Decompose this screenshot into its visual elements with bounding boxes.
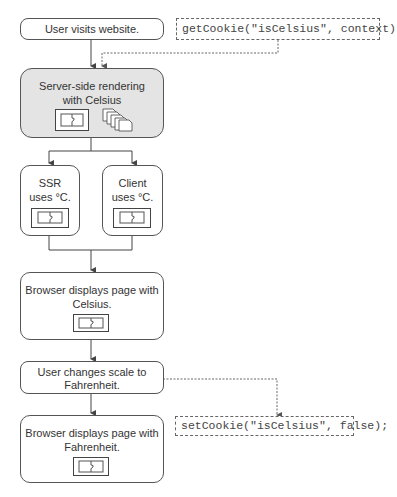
node-browser-displays-celsius: Browser displays page with Celsius. [20,272,164,340]
node-client-uses-celsius: Client uses °C. [102,165,163,236]
page-stack-icon [101,107,137,133]
code-set-cookie: setCookie("isCelsius", false); [175,416,354,436]
component-puzzle-icon [113,208,151,228]
node-label-line2: uses °C. [21,190,79,204]
node-browser-displays-fahrenheit: Browser displays page with Fahrenheit. [20,415,164,483]
component-puzzle-icon [73,314,109,332]
code-text: getCookie("isCelsius", context) [182,22,396,35]
node-label-line1: Browser displays page with [21,426,163,440]
node-label: User visits website. [45,23,139,35]
node-label-line2: Fahrenheit. [21,378,163,392]
node-ssr-uses-celsius: SSR uses °C. [20,165,80,236]
node-user-visits: User visits website. [20,18,164,40]
code-get-cookie: getCookie("isCelsius", context) [176,18,380,40]
node-label-line2: Celsius. [21,297,163,311]
component-puzzle-icon [73,457,109,476]
node-label-line1: Browser displays page with [21,283,163,297]
node-label-line1: Client [103,176,162,190]
node-server-side-rendering: Server-side rendering with Celsius [20,68,164,138]
node-label-line1: SSR [21,176,79,190]
code-text: setCookie("isCelsius", false); [181,419,388,432]
component-puzzle-icon [55,109,89,131]
node-label-line2: Fahrenheit. [21,440,163,454]
component-puzzle-icon [31,208,69,228]
node-label-line1: User changes scale to [21,365,163,379]
node-label-line1: Server-side rendering [21,79,163,93]
node-label-line2: with Celsius [21,93,163,107]
node-label-line2: uses °C. [103,190,162,204]
node-user-changes-scale: User changes scale to Fahrenheit. [20,361,164,394]
